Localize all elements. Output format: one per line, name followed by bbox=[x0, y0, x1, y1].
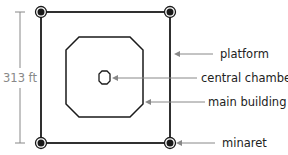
central-chamber-label: central chamber bbox=[201, 71, 288, 85]
main-building-arrow bbox=[145, 99, 205, 105]
main-building-label: main building bbox=[208, 95, 286, 109]
platform-label: platform bbox=[220, 47, 269, 61]
central-chamber-arrow bbox=[112, 75, 197, 81]
central-chamber-outline bbox=[99, 71, 110, 84]
minaret-arrow bbox=[176, 140, 215, 146]
platform-arrow bbox=[174, 51, 213, 57]
minaret-top-left bbox=[36, 7, 47, 18]
main-building-outline bbox=[66, 37, 143, 117]
dimension-label: 313 ft bbox=[3, 71, 37, 85]
site-plan-diagram: 313 ft platform central chamber main bui… bbox=[0, 0, 288, 155]
minaret-bottom-right bbox=[165, 138, 176, 149]
minaret-label: minaret bbox=[222, 136, 267, 150]
minaret-top-right bbox=[165, 7, 176, 18]
minaret-bottom-left bbox=[36, 138, 47, 149]
